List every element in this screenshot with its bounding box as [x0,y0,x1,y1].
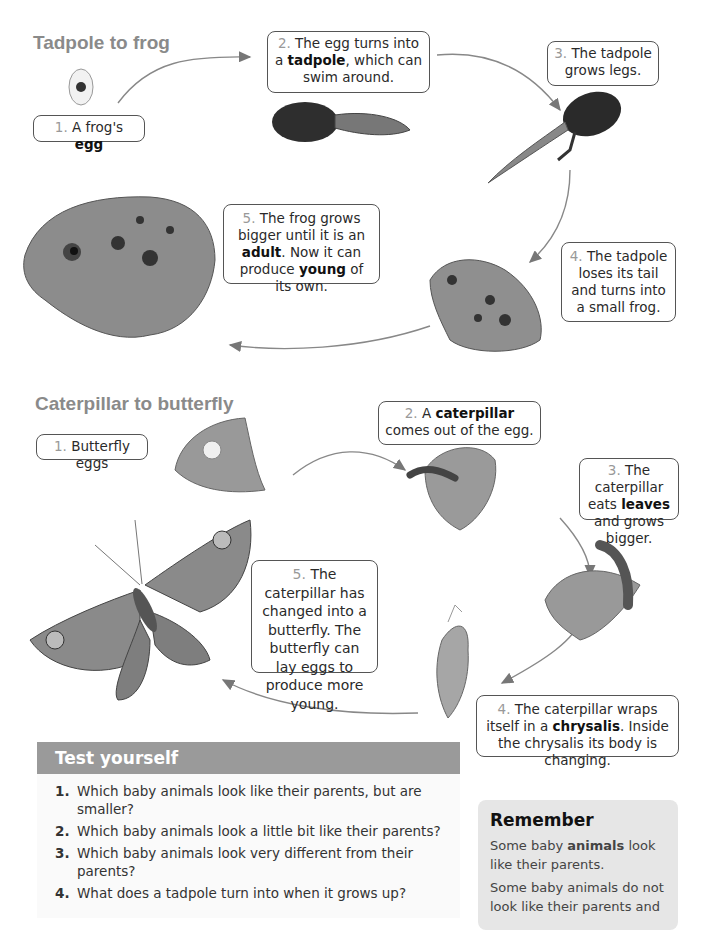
remember-panel: Remember Some baby animals look like the… [478,800,678,930]
butterfly-step-5: 5. The caterpillar has changed into a bu… [251,560,378,673]
question-item: 1.Which baby animals look like their par… [55,782,460,818]
chrysalis-illustration [437,605,468,718]
frog-step-4: 4. The tadpole loses its tail and turns … [561,242,676,322]
remember-text-1: Some baby animals look like their parent… [490,836,666,874]
butterfly-step-3: 3. The caterpillar eats leaves and grows… [579,458,679,520]
butterfly-step-4: 4. The caterpillar wraps itself in a chr… [476,695,679,757]
frog-step-3: 3. The tadpole grows legs. [547,41,659,86]
butterfly-step-1: 1. Butterfly eggs [36,434,148,460]
tadpole-legs-illustration [488,84,627,183]
question-item: 3.Which baby animals look very different… [55,844,460,880]
question-item: 4.What does a tadpole turn into when it … [55,884,460,902]
butterfly-step-2: 2. A caterpillar comes out of the egg. [378,401,541,445]
caterpillar-leaf-illustration [545,545,640,640]
frog-step-1: 1. A frog's egg [33,115,145,142]
butterfly-section-title: Caterpillar to butterfly [35,393,233,415]
remember-title: Remember [490,810,666,830]
frog-step-2: 2. The egg turns into a tadpole, which c… [267,31,430,93]
frog-egg-illustration [69,69,93,105]
question-item: 2.Which baby animals look a little bit l… [55,822,460,840]
test-yourself-panel: Test yourself 1.Which baby animals look … [37,742,460,918]
leaf-eggs-illustration [175,418,265,492]
frog-step-5: 5. The frog grows bigger until it is an … [223,204,380,284]
remember-text-2: Some baby animals do not look like their… [490,878,666,916]
frog-section-title: Tadpole to frog [33,32,170,54]
tadpole-illustration [272,102,410,142]
question-list: 1.Which baby animals look like their par… [37,774,460,902]
butterfly-illustration [30,520,251,700]
caterpillar-hatching-illustration [410,448,496,530]
test-yourself-title: Test yourself [37,742,460,774]
small-frog-illustration [430,260,541,351]
adult-frog-illustration [24,197,215,337]
